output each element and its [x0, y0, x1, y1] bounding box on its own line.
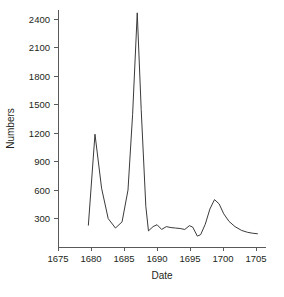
line-chart: 30060090012001500180021002400 1675168016… [0, 0, 284, 297]
x-tick-label: 1675 [47, 253, 68, 264]
y-tick-label: 1200 [29, 128, 50, 139]
x-tick-label: 1695 [179, 253, 200, 264]
x-tick-label: 1700 [213, 253, 234, 264]
y-tick-label: 900 [34, 156, 50, 167]
x-tick-label: 1685 [113, 253, 134, 264]
x-axis-title: Date [151, 270, 173, 281]
x-tick-label: 1690 [146, 253, 167, 264]
y-tick-label: 1500 [29, 99, 50, 110]
x-tick-label: 1680 [80, 253, 101, 264]
y-tick-label: 300 [34, 213, 50, 224]
y-axis-ticks: 30060090012001500180021002400 [29, 14, 58, 224]
x-tick-label: 1705 [246, 253, 267, 264]
y-axis-title: Numbers [5, 108, 16, 149]
x-axis-ticks: 1675168016851690169517001705 [47, 247, 266, 264]
chart-figure: 30060090012001500180021002400 1675168016… [0, 0, 284, 297]
data-series-line [88, 13, 257, 236]
y-tick-label: 2100 [29, 42, 50, 53]
y-tick-label: 1800 [29, 71, 50, 82]
y-tick-label: 600 [34, 185, 50, 196]
y-tick-label: 2400 [29, 14, 50, 25]
